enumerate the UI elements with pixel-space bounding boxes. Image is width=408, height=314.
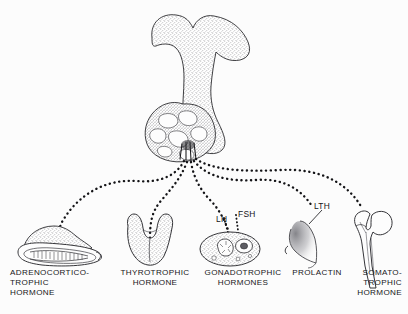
pituitary-hormone-diagram: LH FSH LTH ADRENOCORTICO- TROPHIC HORMON… <box>0 0 408 314</box>
thyroid-gland-organ <box>127 214 172 265</box>
diagram-artwork <box>0 0 408 314</box>
tracer-label-lth: LTH <box>314 201 330 211</box>
pathway-gonad <box>191 162 230 236</box>
hormone-caption-adrenocorticotrophic: ADRENOCORTICO- TROPHIC HORMONE <box>10 268 120 299</box>
ovary-organ <box>200 232 260 266</box>
hormone-caption-thyrotrophic: THYROTROPHIC HORMONE <box>112 268 198 288</box>
pituitary-gland <box>145 15 249 162</box>
mammary-gland-organ <box>285 221 317 268</box>
hormone-caption-gonadotrophic: GONADOTROPHIC HORMONES <box>196 268 290 288</box>
pathway-bone <box>196 159 362 208</box>
tracer-label-lh: LH <box>216 214 227 224</box>
hormone-pathways <box>56 159 362 238</box>
hormone-caption-somatotrophic: SOMATO- TROPHIC HORMONE <box>336 268 402 299</box>
tracer-label-fsh: FSH <box>238 209 256 219</box>
adrenal-gland-organ <box>18 226 101 266</box>
pathway-mammary <box>194 161 312 206</box>
